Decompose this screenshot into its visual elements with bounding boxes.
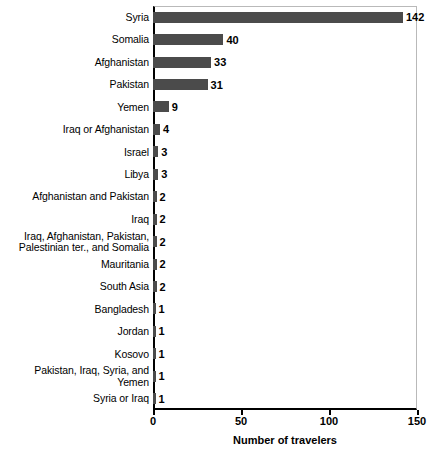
bar-category-label: Iraq or Afghanistan [0,124,149,136]
bar [153,191,157,202]
bar-category-label: Syria [0,12,149,24]
x-axis-tick-label: 50 [235,415,247,427]
bar-category-label: Pakistan [0,79,149,91]
bar [153,34,223,45]
bar [153,146,158,157]
x-axis-tick-label: 150 [408,415,426,427]
bar-value-label: 1 [159,394,165,405]
bar-row: South Asia2 [0,275,434,298]
bar-row: Iraq, Afghanistan, Pakistan, Palestinian… [0,230,434,253]
bar-value-label: 1 [159,326,165,337]
bar-value-label: 1 [159,371,165,382]
bar-row: Iraq2 [0,208,434,231]
bar [153,169,158,180]
bar-value-label: 2 [160,282,166,293]
bar-row: Israel3 [0,141,434,164]
bar-row: Yemen9 [0,96,434,119]
bar-category-label: Afghanistan and Pakistan [0,191,149,203]
bar-value-label: 2 [160,192,166,203]
bar [153,281,157,292]
bar-category-label: Jordan [0,326,149,338]
bar-category-label: Pakistan, Iraq, Syria, and Yemen [0,365,149,388]
bar [153,79,208,90]
bar-category-label: Bangladesh [0,304,149,316]
bar-category-label: Afghanistan [0,57,149,69]
bar [153,259,157,270]
bar [153,348,156,359]
bar-value-label: 31 [211,80,223,91]
bar-value-label: 9 [172,102,178,113]
bar [153,393,156,404]
bar-rows: Syria142Somalia40Afghanistan33Pakistan31… [0,6,434,410]
bar-row: Iraq or Afghanistan4 [0,118,434,141]
bar-value-label: 142 [406,12,424,23]
bar-row: Kosovo1 [0,343,434,366]
bar-value-label: 3 [161,147,167,158]
bar [153,214,157,225]
bar [153,101,169,112]
bar-category-label: Israel [0,147,149,159]
bar-category-label: Yemen [0,102,149,114]
bar [153,371,156,382]
bar-category-label: Syria or Iraq [0,393,149,405]
bar-category-label: Somalia [0,34,149,46]
bar [153,303,156,314]
bar-row: Mauritania2 [0,253,434,276]
bar-row: Syria or Iraq1 [0,388,434,411]
bar-value-label: 1 [159,304,165,315]
bar-row: Afghanistan33 [0,51,434,74]
bar-value-label: 3 [161,169,167,180]
bar-value-label: 2 [160,237,166,248]
bar [153,12,403,23]
bar-chart: Syria142Somalia40Afghanistan33Pakistan31… [0,0,434,459]
bar [153,57,211,68]
x-axis-title: Number of travelers [153,434,417,446]
bar-row: Somalia40 [0,28,434,51]
bar-value-label: 4 [163,124,169,135]
bar-value-label: 1 [159,349,165,360]
bar-category-label: Libya [0,169,149,181]
bar-row: Afghanistan and Pakistan2 [0,186,434,209]
bar-row: Pakistan31 [0,73,434,96]
bar [153,326,156,337]
bar-row: Jordan1 [0,320,434,343]
bar-category-label: Mauritania [0,259,149,271]
bar-value-label: 2 [160,214,166,225]
bar-row: Libya3 [0,163,434,186]
bar-row: Syria142 [0,6,434,29]
bar-row: Bangladesh1 [0,298,434,321]
bar-row: Pakistan, Iraq, Syria, and Yemen1 [0,365,434,388]
bar-category-label: Iraq [0,214,149,226]
x-axis-ticks [153,410,417,416]
bar-value-label: 2 [160,259,166,270]
bar-category-label: Kosovo [0,349,149,361]
x-axis-tick-label: 0 [150,415,156,427]
x-axis-tick-label: 100 [320,415,338,427]
bar [153,236,157,247]
bar [153,124,160,135]
bar-category-label: South Asia [0,281,149,293]
bar-category-label: Iraq, Afghanistan, Pakistan, Palestinian… [0,231,149,254]
bar-value-label: 40 [226,35,238,46]
bar-value-label: 33 [214,57,226,68]
